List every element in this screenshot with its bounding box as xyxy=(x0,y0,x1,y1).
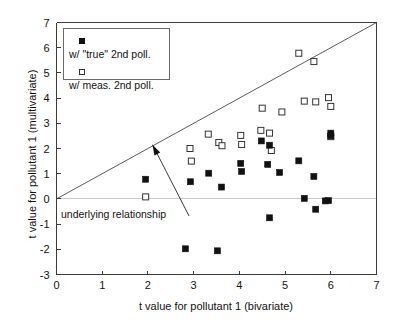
legend-entry-meas: w/ meas. 2nd poll. xyxy=(69,63,164,91)
data-point-w-true-2nd-poll xyxy=(313,206,319,212)
data-point-w-meas-2nd-poll xyxy=(219,143,225,149)
data-point-w-meas-2nd-poll xyxy=(313,99,319,105)
data-point-w-true-2nd-poll xyxy=(206,170,212,176)
annotation-label-underlying-relationship: underlying relationship xyxy=(61,208,166,220)
data-point-w-meas-2nd-poll xyxy=(301,98,307,104)
data-point-w-meas-2nd-poll xyxy=(188,158,194,164)
y-tick-label: -3 xyxy=(0,269,50,281)
data-point-w-true-2nd-poll xyxy=(187,179,193,185)
data-point-w-true-2nd-poll xyxy=(267,215,273,221)
data-point-w-meas-2nd-poll xyxy=(238,132,244,138)
data-point-w-true-2nd-poll xyxy=(219,184,225,190)
annotation-arrow-head xyxy=(153,145,161,156)
legend-entry-true: w/ "true" 2nd poll. xyxy=(69,32,164,60)
data-point-w-meas-2nd-poll xyxy=(239,141,245,147)
legend-label-meas: w/ meas. 2nd poll. xyxy=(69,80,164,91)
data-point-w-true-2nd-poll xyxy=(328,133,334,139)
series-w-true-2nd-poll-markers xyxy=(143,130,334,254)
data-point-w-true-2nd-poll xyxy=(326,198,332,204)
data-point-w-meas-2nd-poll xyxy=(279,109,285,115)
chart-legend: w/ "true" 2nd poll. w/ meas. 2nd poll. xyxy=(63,28,170,80)
scatter-plot-figure: 01234567-3-2-101234567 underlying relati… xyxy=(0,0,399,323)
data-point-w-meas-2nd-poll xyxy=(258,127,264,133)
data-point-w-meas-2nd-poll xyxy=(296,50,302,56)
data-point-w-true-2nd-poll xyxy=(238,160,244,166)
x-tick-label: 3 xyxy=(191,279,197,291)
data-point-w-meas-2nd-poll xyxy=(143,194,149,200)
y-tick-label: -2 xyxy=(0,243,50,255)
data-point-w-true-2nd-poll xyxy=(267,142,273,148)
y-tick-label: 4 xyxy=(0,92,50,104)
y-tick-label: 7 xyxy=(0,17,50,29)
data-point-w-true-2nd-poll xyxy=(265,161,271,167)
x-tick-label: 1 xyxy=(99,279,105,291)
y-tick-label: 3 xyxy=(0,117,50,129)
x-axis-title: t value for pollutant 1 (bivariate) xyxy=(139,300,293,312)
y-tick-label: 6 xyxy=(0,42,50,54)
data-point-w-meas-2nd-poll xyxy=(328,103,334,109)
data-point-w-true-2nd-poll xyxy=(296,158,302,164)
data-point-w-meas-2nd-poll xyxy=(311,59,317,65)
annotation-arrow-group xyxy=(153,145,190,216)
data-point-w-meas-2nd-poll xyxy=(267,130,273,136)
y-tick-label: -1 xyxy=(0,218,50,230)
legend-label-true: w/ "true" 2nd poll. xyxy=(69,49,164,60)
x-tick-label: 5 xyxy=(282,279,288,291)
data-point-w-true-2nd-poll xyxy=(258,138,264,144)
data-point-w-true-2nd-poll xyxy=(214,248,220,254)
legend-filled-square-icon xyxy=(79,38,85,44)
y-tick-label: 0 xyxy=(0,193,50,205)
y-tick-label: 1 xyxy=(0,168,50,180)
series-w-meas-2nd-poll-markers xyxy=(143,50,334,200)
data-point-w-true-2nd-poll xyxy=(311,173,317,179)
x-tick-label: 4 xyxy=(236,279,242,291)
legend-open-square-icon xyxy=(79,69,85,75)
x-tick-label: 2 xyxy=(145,279,151,291)
annotation-leader-line xyxy=(153,145,190,216)
plot-canvas xyxy=(0,0,399,323)
x-tick-label: 7 xyxy=(373,279,379,291)
data-point-w-true-2nd-poll xyxy=(143,176,149,182)
x-tick-label: 6 xyxy=(328,279,334,291)
y-axis-title: t value for pollutant 1 (multivariate) xyxy=(26,44,38,264)
data-point-w-true-2nd-poll xyxy=(239,168,245,174)
data-point-w-true-2nd-poll xyxy=(277,169,283,175)
data-point-w-meas-2nd-poll xyxy=(187,146,193,152)
data-point-w-true-2nd-poll xyxy=(301,195,307,201)
y-tick-label: 2 xyxy=(0,143,50,155)
data-point-w-meas-2nd-poll xyxy=(205,131,211,137)
y-tick-label: 5 xyxy=(0,67,50,79)
data-point-w-meas-2nd-poll xyxy=(326,95,332,101)
data-point-w-meas-2nd-poll xyxy=(259,105,265,111)
x-tick-label: 0 xyxy=(53,279,59,291)
data-point-w-true-2nd-poll xyxy=(182,246,188,252)
